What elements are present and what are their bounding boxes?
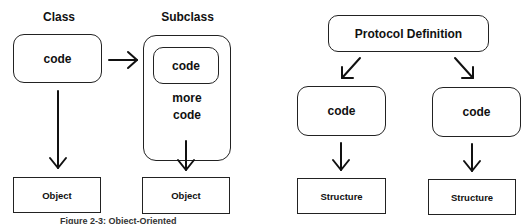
arrow-down-icon [50,91,66,168]
arrow-down-icon [333,143,349,170]
arrow-down-left-icon [342,58,360,78]
arrow-down-right-icon [455,58,473,78]
figure-caption: Figure 2-3: Object-Oriented [60,216,177,224]
arrow-right-icon [109,52,137,68]
arrow-down-icon [178,141,194,170]
arrows-layer [0,0,532,224]
arrow-down-icon [464,144,480,171]
